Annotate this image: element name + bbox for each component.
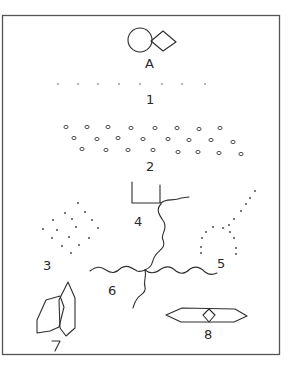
ring (153, 126, 157, 129)
item-2-rings (64, 125, 243, 155)
item-7-label: 7 (52, 339, 60, 354)
dot (235, 247, 237, 249)
dot (52, 219, 54, 221)
ring (85, 125, 89, 128)
dot (139, 83, 140, 84)
ring (95, 137, 99, 140)
item-4-shape (132, 182, 189, 203)
ring (196, 150, 200, 153)
dot (229, 231, 231, 233)
dot (97, 227, 99, 229)
dot (64, 212, 66, 214)
dot (240, 210, 242, 212)
dot (212, 226, 214, 228)
ring (239, 152, 243, 155)
dot (228, 224, 230, 226)
dot (254, 190, 256, 192)
ring (116, 136, 120, 139)
dot (233, 218, 235, 220)
dot (75, 226, 77, 228)
item-a-label: A (145, 56, 154, 71)
dot (233, 237, 235, 239)
ring (209, 138, 213, 141)
ring (80, 147, 84, 150)
item-a-shape (128, 28, 176, 52)
dot (181, 83, 182, 84)
ring (64, 125, 68, 128)
ring (218, 126, 222, 129)
dot (201, 237, 203, 239)
item-8-shape (166, 308, 247, 322)
item-6-label: 6 (108, 283, 116, 298)
item-4-label: 4 (134, 214, 142, 229)
dot (61, 245, 63, 247)
item-7-shape (37, 282, 75, 336)
ring (166, 137, 170, 140)
dot (249, 197, 251, 199)
item-8-label: 8 (204, 327, 212, 342)
dot (68, 236, 70, 238)
dot (88, 237, 90, 239)
dot (84, 211, 86, 213)
item-5-dots (200, 190, 256, 255)
dot (77, 202, 79, 204)
dot (70, 252, 72, 254)
ring (126, 148, 130, 151)
dot (78, 244, 80, 246)
ring (217, 151, 221, 154)
dot (51, 237, 53, 239)
item-1-label: 1 (146, 92, 154, 107)
item-3-label: 3 (43, 258, 51, 273)
ring (104, 148, 108, 151)
ring (197, 127, 201, 130)
item-5-label: 5 (217, 256, 225, 271)
item-1-dots (57, 83, 205, 84)
ring (187, 138, 191, 141)
dot (118, 83, 119, 84)
ring (129, 126, 133, 129)
dot (56, 229, 58, 231)
dot (161, 83, 162, 84)
ring (175, 126, 179, 129)
item-2-label: 2 (146, 159, 154, 174)
dot (77, 83, 78, 84)
ring (72, 136, 76, 139)
dot (235, 253, 237, 255)
dot (57, 83, 58, 84)
dot (205, 231, 207, 233)
dot (91, 219, 93, 221)
ring (176, 150, 180, 153)
ring (151, 148, 155, 151)
dot (204, 83, 205, 84)
dot (245, 203, 247, 205)
dot (200, 246, 202, 248)
ring (106, 125, 110, 128)
ring (141, 137, 145, 140)
diagram-canvas: A 1 2 3 4 5 6 7 8 (0, 0, 294, 373)
dot (200, 252, 202, 254)
dot (71, 218, 73, 220)
dot (42, 228, 44, 230)
dot (97, 83, 98, 84)
dot (222, 227, 224, 229)
ring (231, 140, 235, 143)
item-3-dots (42, 202, 99, 254)
